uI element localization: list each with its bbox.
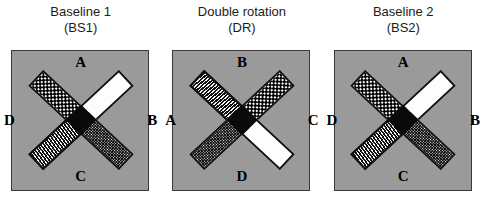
panel-baseline-1: Baseline 1 (BS1) A B C D: [0, 0, 161, 202]
label-left: A: [165, 113, 176, 128]
label-bottom: C: [323, 169, 484, 184]
label-bottom: C: [0, 169, 161, 184]
label-left: D: [4, 113, 15, 128]
panel-title: Baseline 2 (BS2): [323, 4, 484, 36]
panel-baseline-2: Baseline 2 (BS2) A B C D: [323, 0, 484, 202]
panel-title: Baseline 1 (BS1): [0, 4, 161, 36]
label-top: A: [323, 55, 484, 70]
panel-title-line1: Double rotation: [198, 4, 286, 19]
stimulus-figure: Baseline 1 (BS1) A B C D Double rotation…: [0, 0, 484, 202]
panel-title-line1: Baseline 1: [50, 4, 111, 19]
panel-title-line1: Baseline 2: [373, 4, 434, 19]
label-right: C: [308, 113, 319, 128]
label-right: B: [147, 113, 157, 128]
label-bottom: D: [161, 169, 322, 184]
panel-title: Double rotation (DR): [161, 4, 322, 36]
panel-title-line2: (BS1): [0, 20, 161, 36]
panel-title-line2: (DR): [161, 20, 322, 36]
panel-title-line2: (BS2): [323, 20, 484, 36]
panel-double-rotation: Double rotation (DR) B C D A: [161, 0, 322, 202]
label-top: B: [161, 55, 322, 70]
label-top: A: [0, 55, 161, 70]
label-left: D: [327, 113, 338, 128]
label-right: B: [470, 113, 480, 128]
